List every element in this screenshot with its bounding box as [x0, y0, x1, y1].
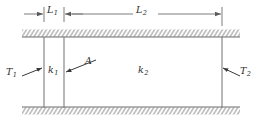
top-boundary-hatching: [22, 30, 240, 38]
conductivity-label-k1: k1: [48, 65, 58, 75]
wall-interface-lines: [44, 37, 222, 108]
composite-wall-diagram: L1 L2 T1 k1 A k2 T2: [0, 0, 263, 121]
temperature-label-T1: T1: [6, 67, 17, 77]
dimension-label-L1: L1: [47, 5, 58, 15]
area-label-A: A: [85, 56, 92, 66]
leader-T1: [22, 68, 42, 76]
dimension-extension-lines: [44, 7, 222, 26]
temperature-label-T2: T2: [240, 66, 251, 76]
bottom-boundary-hatching: [22, 107, 240, 115]
conductivity-label-k2: k2: [138, 65, 148, 75]
dimension-label-L2: L2: [136, 5, 147, 15]
leader-T2: [223, 68, 240, 76]
diagram-canvas: [0, 0, 263, 121]
